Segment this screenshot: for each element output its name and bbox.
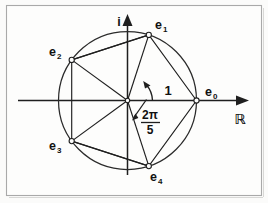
vertex-dot-e0 — [194, 98, 199, 103]
real-axis-label: ℝ — [234, 111, 246, 127]
vertex-label-e4-base: e — [150, 170, 157, 184]
vertex-label-e3-subscript: 3 — [57, 146, 62, 155]
vertex-dot-e3 — [69, 139, 74, 144]
vertex-dot-e2 — [69, 57, 74, 62]
vertex-label-e4-subscript: 4 — [158, 177, 163, 186]
vertex-label-e3-base: e — [49, 139, 56, 153]
unit-radius-label: 1 — [164, 83, 171, 98]
angle-numerator: 2π — [142, 108, 158, 122]
vertex-dot-e4 — [146, 164, 151, 169]
figure-frame: 2π 5 1 i ℝ e 0 e 1 e 2 e 3 e 4 — [0, 0, 268, 203]
vertex-label-e0-subscript: 0 — [213, 92, 218, 101]
vertex-label-e2-base: e — [49, 45, 56, 59]
origin-dot — [125, 98, 129, 102]
vertex-label-e1-base: e — [155, 18, 162, 32]
vertex-label-e0-base: e — [205, 85, 212, 99]
vertex-label-e2-subscript: 2 — [57, 52, 62, 61]
roots-of-unity-figure: 2π 5 1 i ℝ e 0 e 1 e 2 e 3 e 4 — [0, 0, 268, 203]
imaginary-axis-label: i — [117, 15, 120, 29]
vertex-dot-e1 — [146, 32, 151, 37]
angle-denominator: 5 — [147, 123, 154, 137]
vertex-label-e1-subscript: 1 — [163, 25, 168, 34]
